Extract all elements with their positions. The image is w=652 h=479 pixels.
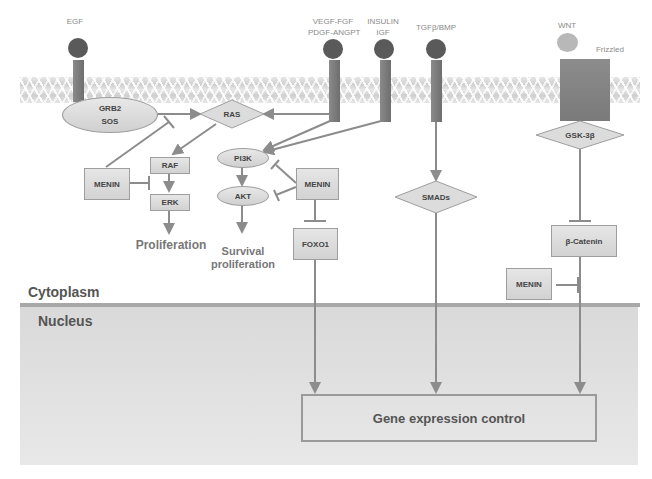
akt-node: AKT xyxy=(217,186,269,206)
smads-label: SMADs xyxy=(395,181,477,213)
gene-expression-control-box: Gene expression control xyxy=(301,394,597,442)
gsk3b-label: GSK-3β xyxy=(536,121,624,149)
ras-label: RAS xyxy=(200,100,264,128)
survival-outcome-line2: proliferation xyxy=(206,258,280,271)
beta-catenin-node: β-Catenin xyxy=(551,225,617,257)
menin-middle-node: MENIN xyxy=(296,168,339,200)
survival-outcome-line1: Survival xyxy=(206,245,280,258)
menin-left-node: MENIN xyxy=(84,168,130,200)
grb2-sos-node: GRB2 SOS xyxy=(62,97,158,133)
sos-label: SOS xyxy=(99,115,121,128)
nucleus-label: Nucleus xyxy=(38,313,92,329)
grb2-label: GRB2 xyxy=(99,102,121,115)
foxo1-node: FOXO1 xyxy=(293,228,338,260)
raf-node: RAF xyxy=(150,157,190,174)
pi3k-node: PI3K xyxy=(217,148,269,168)
proliferation-outcome: Proliferation xyxy=(128,239,214,252)
menin-right-node: MENIN xyxy=(506,268,552,300)
erk-node: ERK xyxy=(150,194,190,211)
cytoplasm-label: Cytoplasm xyxy=(28,284,100,300)
